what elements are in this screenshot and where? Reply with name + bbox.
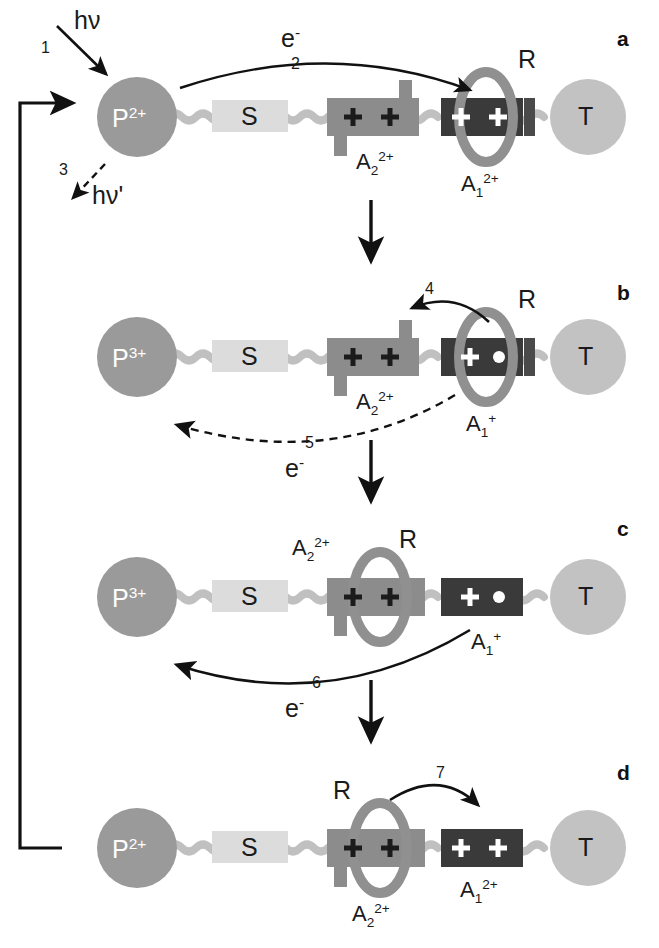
step7-arrow-d — [390, 785, 478, 805]
label-P-d: P2+ — [112, 836, 146, 862]
label-electron-b: e- — [285, 455, 304, 481]
panel-label-a: a — [617, 28, 629, 49]
station-A1-c — [441, 578, 523, 616]
label-T-a: T — [578, 104, 593, 129]
label-S-b: S — [241, 344, 258, 369]
label-T-c: T — [578, 584, 593, 609]
label-A1-d: A12+ — [460, 878, 498, 905]
label-P-b: P3+ — [112, 345, 146, 371]
label-S-d: S — [241, 835, 258, 860]
label-A1-c: A1+ — [471, 630, 501, 657]
stopper-c — [414, 578, 425, 616]
panel-label-b: b — [617, 282, 630, 303]
stopper-d — [414, 829, 425, 867]
panel-label-c: c — [617, 518, 629, 539]
panel-c-graphics — [97, 552, 626, 740]
label-R-c: R — [399, 527, 417, 552]
label-electron-a: e- — [281, 25, 300, 51]
label-electron-c: e- — [285, 695, 304, 721]
label-A2-c: A22+ — [292, 536, 330, 563]
label-photon-absorb-a: hν — [74, 8, 100, 33]
label-photon-emit-a: hν' — [92, 183, 123, 208]
step-number-1: 1 — [41, 40, 50, 56]
label-A2-d: A22+ — [352, 902, 390, 929]
station-A2-a — [327, 80, 419, 156]
step5-arrow-b — [177, 395, 455, 442]
panel-label-d: d — [617, 762, 630, 783]
label-A1-b: A1+ — [466, 412, 496, 439]
radical-dot-b — [493, 351, 505, 363]
step-number-4: 4 — [425, 281, 434, 297]
step6-arrow-c — [177, 630, 470, 684]
diagram-graphics — [0, 0, 659, 948]
label-R-d: R — [333, 778, 351, 803]
label-P-a: P2+ — [112, 105, 146, 131]
label-T-d: T — [578, 835, 593, 860]
label-S-c: S — [241, 584, 258, 609]
panel-a-graphics — [57, 26, 626, 260]
label-R-a: R — [518, 47, 536, 72]
step2-arrow-a — [180, 63, 470, 90]
panel-d-graphics — [97, 785, 626, 893]
step-number-6: 6 — [312, 675, 321, 691]
label-T-b: T — [578, 344, 593, 369]
label-A2-b: A22+ — [356, 390, 394, 417]
step-number-3: 3 — [59, 162, 68, 178]
label-A1-a: A12+ — [461, 172, 499, 199]
recycle-arrow — [20, 103, 72, 848]
label-R-b: R — [518, 287, 536, 312]
label-P-c: P3+ — [112, 585, 146, 611]
step-number-7: 7 — [436, 765, 445, 781]
step-number-2: 2 — [291, 56, 300, 72]
stopper-a — [524, 98, 535, 136]
label-S-a: S — [241, 104, 258, 129]
station-A2-b — [327, 320, 419, 396]
label-A2-a: A22+ — [356, 150, 394, 177]
stopper-b — [524, 338, 535, 376]
molecular-shuttle-figure: a P2+ S T R A22+ A12+ hν 1 e- 2 3 hν' b … — [0, 0, 659, 948]
radical-dot-c — [493, 591, 505, 603]
step-number-5: 5 — [305, 435, 314, 451]
